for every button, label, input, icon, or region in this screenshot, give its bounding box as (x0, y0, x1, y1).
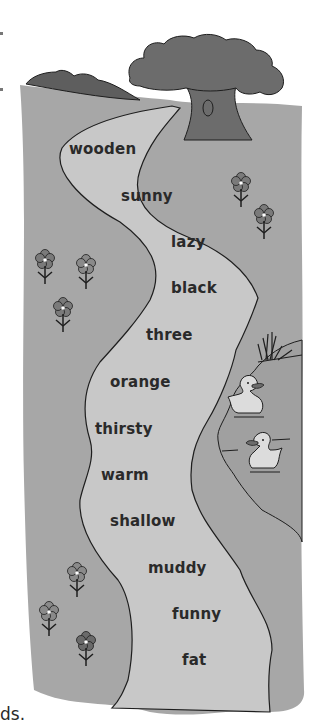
worksheet-illustration (0, 0, 319, 728)
page-margin-mark (0, 32, 3, 35)
tree-canopy (129, 34, 284, 94)
path-word: three (146, 326, 193, 344)
page-margin-mark (0, 88, 3, 91)
path-word: orange (110, 373, 171, 391)
path-word: shallow (110, 512, 176, 530)
path-word: black (171, 279, 217, 297)
path-word: thirsty (95, 420, 153, 438)
caption-fragment: ds. (0, 704, 25, 724)
path-word: sunny (121, 187, 173, 205)
path-word: muddy (148, 559, 207, 577)
path-word: wooden (69, 140, 136, 158)
path-word: lazy (171, 233, 206, 251)
path-word: funny (172, 605, 221, 623)
path-word: warm (101, 466, 149, 484)
path-word: fat (182, 651, 206, 669)
